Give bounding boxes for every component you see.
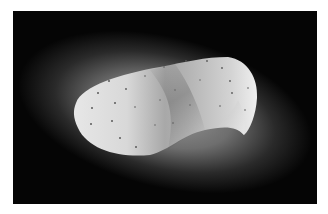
photo: A white, saddle-shaped curved sheet with…	[13, 11, 317, 204]
photo-canvas	[13, 11, 317, 204]
